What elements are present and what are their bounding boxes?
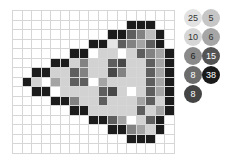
grid-cell[interactable] [80,106,90,116]
grid-cell[interactable] [137,59,147,69]
grid-cell[interactable] [137,40,147,50]
grid-cell[interactable] [146,125,156,135]
grid-cell[interactable] [99,68,109,78]
grid-cell[interactable] [89,87,99,97]
grid-cell[interactable] [99,21,109,31]
grid-cell[interactable] [137,116,147,126]
grid-cell[interactable] [89,144,99,154]
grid-cell[interactable] [80,40,90,50]
grid-cell[interactable] [23,40,33,50]
grid-cell[interactable] [118,97,128,107]
grid-cell[interactable] [108,40,118,50]
grid-cell[interactable] [42,106,52,116]
grid-cell[interactable] [137,106,147,116]
grid-cell[interactable] [32,97,42,107]
grid-cell[interactable] [165,40,175,50]
grid-cell[interactable] [89,40,99,50]
grid-cell[interactable] [80,59,90,69]
grid-cell[interactable] [70,68,80,78]
grid-cell[interactable] [156,68,166,78]
grid-cell[interactable] [42,49,52,59]
grid-cell[interactable] [23,87,33,97]
grid-cell[interactable] [146,135,156,145]
grid-cell[interactable] [108,11,118,21]
grid-cell[interactable] [42,59,52,69]
grid-cell[interactable] [137,144,147,154]
grid-cell[interactable] [32,106,42,116]
grid-cell[interactable] [156,11,166,21]
grid-cell[interactable] [32,59,42,69]
grid-cell[interactable] [118,144,128,154]
grid-cell[interactable] [146,21,156,31]
grid-cell[interactable] [42,21,52,31]
grid-cell[interactable] [70,116,80,126]
grid-cell[interactable] [51,21,61,31]
grid-cell[interactable] [61,78,71,88]
grid-cell[interactable] [118,59,128,69]
grid-cell[interactable] [42,135,52,145]
grid-cell[interactable] [165,78,175,88]
grid-cell[interactable] [99,30,109,40]
grid-cell[interactable] [89,116,99,126]
grid-cell[interactable] [70,135,80,145]
grid-cell[interactable] [51,78,61,88]
grid-cell[interactable] [51,11,61,21]
grid-cell[interactable] [118,125,128,135]
grid-cell[interactable] [99,40,109,50]
grid-cell[interactable] [156,87,166,97]
grid-cell[interactable] [80,68,90,78]
grid-cell[interactable] [23,49,33,59]
grid-cell[interactable] [99,125,109,135]
grid-cell[interactable] [32,49,42,59]
grid-cell[interactable] [118,78,128,88]
grid-cell[interactable] [32,125,42,135]
grid-cell[interactable] [13,59,23,69]
grid-cell[interactable] [156,21,166,31]
grid-cell[interactable] [80,49,90,59]
grid-cell[interactable] [89,97,99,107]
grid-cell[interactable] [146,97,156,107]
grid-cell[interactable] [80,30,90,40]
palette-color-swatch[interactable]: 10 [184,28,202,46]
grid-cell[interactable] [61,11,71,21]
grid-cell[interactable] [23,116,33,126]
grid-cell[interactable] [42,40,52,50]
palette-color-swatch[interactable]: 15 [202,47,220,65]
palette-color-swatch[interactable]: 8 [184,85,202,103]
grid-cell[interactable] [80,11,90,21]
palette-color-swatch[interactable]: 38 [202,66,220,84]
grid-cell[interactable] [51,59,61,69]
grid-cell[interactable] [118,30,128,40]
grid-cell[interactable] [89,30,99,40]
grid-cell[interactable] [80,116,90,126]
grid-cell[interactable] [70,97,80,107]
grid-cell[interactable] [23,106,33,116]
grid-cell[interactable] [165,144,175,154]
grid-cell[interactable] [99,116,109,126]
grid-cell[interactable] [165,125,175,135]
grid-cell[interactable] [51,30,61,40]
grid-cell[interactable] [70,40,80,50]
grid-cell[interactable] [156,59,166,69]
grid-cell[interactable] [108,135,118,145]
grid-cell[interactable] [156,97,166,107]
grid-cell[interactable] [156,49,166,59]
palette-color-swatch[interactable]: 6 [184,47,202,65]
grid-cell[interactable] [13,87,23,97]
grid-cell[interactable] [156,106,166,116]
grid-cell[interactable] [99,11,109,21]
grid-cell[interactable] [108,30,118,40]
grid-cell[interactable] [23,21,33,31]
grid-cell[interactable] [108,68,118,78]
grid-cell[interactable] [137,125,147,135]
grid-cell[interactable] [13,125,23,135]
grid-cell[interactable] [146,11,156,21]
grid-cell[interactable] [146,30,156,40]
grid-cell[interactable] [13,144,23,154]
grid-cell[interactable] [13,68,23,78]
grid-cell[interactable] [127,30,137,40]
grid-cell[interactable] [165,30,175,40]
grid-cell[interactable] [61,40,71,50]
grid-cell[interactable] [80,87,90,97]
grid-cell[interactable] [99,87,109,97]
